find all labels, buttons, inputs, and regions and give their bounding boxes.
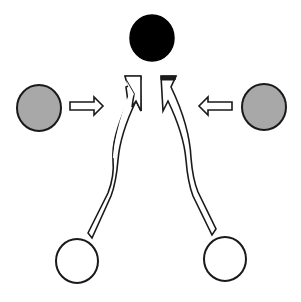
curved-arrow-left-shaft-top (113, 80, 134, 158)
node-right-gray (242, 84, 286, 130)
diagram-canvas (0, 0, 301, 302)
curved-arrow-right-head (161, 76, 176, 80)
node-bottom-right-white (204, 237, 246, 281)
node-bottom-left-white (56, 239, 98, 283)
arrow-left-to-center (70, 97, 103, 115)
node-left-gray (17, 85, 61, 131)
node-top-black (130, 15, 174, 61)
arrow-right-to-center (199, 97, 232, 115)
